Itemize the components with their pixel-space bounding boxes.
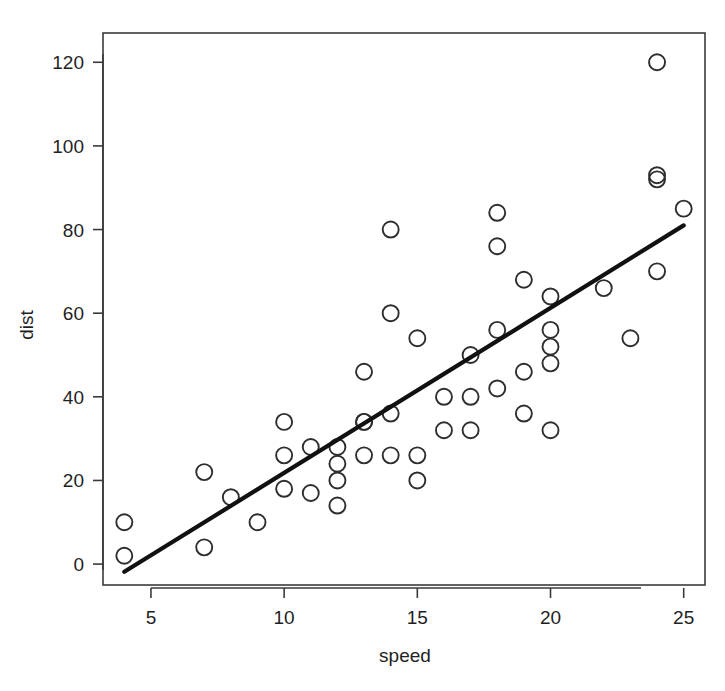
y-axis-title: dist bbox=[16, 310, 37, 340]
y-tick-label: 120 bbox=[52, 52, 84, 73]
y-tick-label: 40 bbox=[63, 387, 84, 408]
x-tick-label: 25 bbox=[673, 607, 694, 628]
x-tick-label: 15 bbox=[407, 607, 428, 628]
x-tick-label: 10 bbox=[274, 607, 295, 628]
y-tick-label: 80 bbox=[63, 220, 84, 241]
y-tick-label: 0 bbox=[73, 554, 84, 575]
figure-canvas: 020406080100120 dist 510152025 speed bbox=[0, 0, 725, 691]
x-axis-title: speed bbox=[379, 645, 431, 666]
scatter-plot: 020406080100120 dist 510152025 speed bbox=[0, 0, 725, 691]
y-tick-label: 100 bbox=[52, 136, 84, 157]
y-tick-label: 60 bbox=[63, 303, 84, 324]
x-tick-label: 5 bbox=[146, 607, 157, 628]
x-tick-label: 20 bbox=[540, 607, 561, 628]
y-tick-label: 20 bbox=[63, 470, 84, 491]
